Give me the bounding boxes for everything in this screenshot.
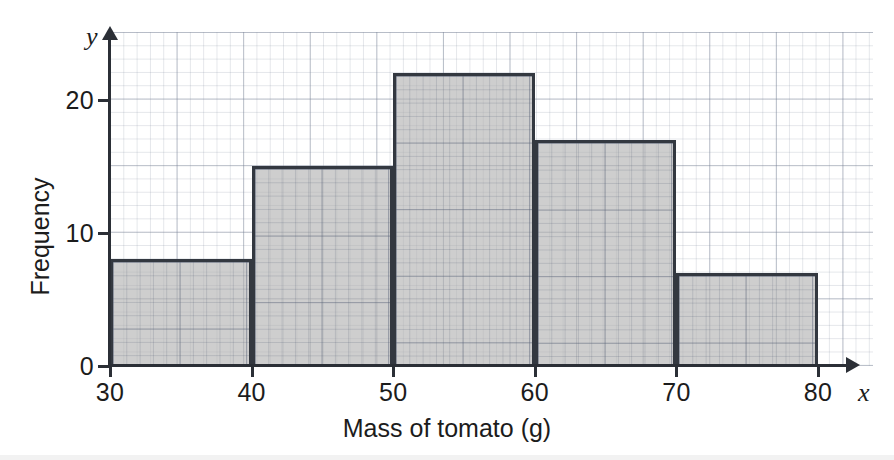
- x-tick-mark: [675, 366, 678, 377]
- y-tick-label: 20: [66, 85, 94, 114]
- x-tick-label: 80: [804, 378, 832, 407]
- x-axis-line: [110, 364, 850, 367]
- histogram-bar: [393, 73, 535, 366]
- x-tick-label: 30: [96, 378, 124, 407]
- histogram-bar: [535, 140, 677, 366]
- y-tick-label: 0: [80, 352, 94, 381]
- x-axis-title: Mass of tomato (g): [0, 414, 894, 443]
- x-tick-label: 70: [662, 378, 690, 407]
- x-tick-mark: [817, 366, 820, 377]
- x-tick-label: 60: [521, 378, 549, 407]
- histogram-bar: [110, 259, 252, 366]
- y-tick-label: 10: [66, 218, 94, 247]
- x-tick-mark: [392, 366, 395, 377]
- y-tick-mark: [98, 232, 110, 235]
- x-axis-letter: x: [858, 378, 870, 408]
- histogram-bar: [252, 166, 394, 366]
- histogram-bar: [676, 273, 818, 366]
- y-axis-letter: y: [86, 22, 98, 52]
- x-tick-mark: [251, 366, 254, 377]
- histogram-figure: 304050607080 01020 y x Mass of tomato (g…: [0, 0, 894, 460]
- x-axis-arrow-icon: [846, 357, 860, 373]
- y-axis-title: Frequency: [26, 137, 55, 337]
- y-axis-arrow-icon: [102, 26, 118, 40]
- y-tick-mark: [98, 365, 110, 368]
- y-axis-line: [108, 40, 111, 367]
- x-tick-label: 50: [379, 378, 407, 407]
- scan-page-edge: [0, 455, 894, 460]
- y-tick-mark: [98, 99, 110, 102]
- x-tick-mark: [534, 366, 537, 377]
- x-tick-label: 40: [237, 378, 265, 407]
